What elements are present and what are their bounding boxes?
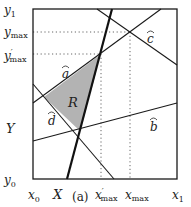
- line-a: [33, 9, 161, 103]
- label-x0: x0: [28, 188, 40, 204]
- label-y1: y1: [3, 3, 16, 19]
- label-yprime-max: y′max: [3, 47, 27, 64]
- label-ymax: ymax: [3, 25, 28, 40]
- svg-text:d: d: [48, 114, 56, 128]
- label-y0: y0: [3, 173, 16, 189]
- svg-text:b: b: [150, 120, 158, 134]
- label-a: a: [62, 66, 69, 81]
- label-c: c: [147, 31, 154, 46]
- svg-text:c: c: [147, 32, 154, 46]
- label-xmax: xmax: [125, 188, 149, 203]
- label-d: d: [48, 112, 56, 128]
- label-X: X: [52, 187, 63, 202]
- label-b: b: [150, 118, 158, 134]
- caption: (a): [72, 190, 89, 204]
- diagram-figure: y1 ymax y′max Y y0 x0 X (a) x′max xmax x…: [0, 0, 191, 207]
- label-x1: x1: [172, 188, 184, 204]
- label-xprime-max: x′max: [95, 186, 118, 203]
- label-region-r: R: [67, 95, 78, 110]
- svg-text:a: a: [62, 67, 69, 81]
- label-Y: Y: [6, 121, 16, 136]
